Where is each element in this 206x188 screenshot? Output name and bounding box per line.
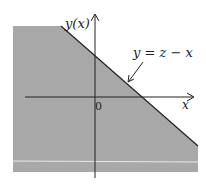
- origin-label: 0: [95, 100, 102, 113]
- x-axis-label: x: [182, 98, 189, 112]
- line-label: y = z − x: [132, 45, 194, 60]
- y-axis-label: y(x): [64, 16, 90, 31]
- label-pointer: [129, 62, 143, 81]
- diagram-canvas: y(x) y = z − x 0 x: [0, 0, 206, 188]
